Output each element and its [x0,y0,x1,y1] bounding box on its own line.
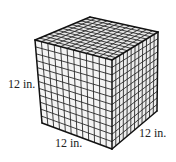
width-label: 12 in. [55,137,82,149]
cube-diagram: 12 in. 12 in. 12 in. [0,0,176,162]
height-label: 12 in. [8,78,35,90]
depth-label: 12 in. [139,127,166,139]
